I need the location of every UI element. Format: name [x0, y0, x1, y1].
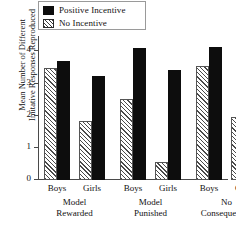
y-tick-1: 1	[34, 147, 39, 148]
y-tick-2: 2	[34, 115, 39, 116]
bar-chart-figure: Positive Incentive No Incentive Mean Num…	[0, 0, 236, 227]
x-label-boys-0: Boys	[37, 183, 77, 193]
legend-swatch-hatched-icon	[43, 19, 54, 28]
y-tick-label-0: 0	[27, 173, 32, 183]
bar-model-girls-positive-incentive	[92, 76, 105, 180]
legend-label-positive-incentive: Positive Incentive	[59, 5, 126, 15]
y-axis-line	[38, 36, 39, 180]
x-group-label-0: ModelRewarded	[40, 197, 110, 218]
legend-label-no-incentive: No Incentive	[59, 18, 107, 28]
legend-item-positive-incentive: Positive Incentive	[43, 4, 142, 16]
y-tick-label-2: 2	[27, 109, 32, 119]
y-tick-label-4: 4	[27, 44, 32, 54]
chart-legend: Positive Incentive No Incentive	[38, 1, 146, 30]
x-group-label-2: NoConsequences	[192, 197, 237, 218]
legend-swatch-solid-icon	[43, 6, 54, 15]
legend-item-no-incentive: No Incentive	[43, 17, 142, 29]
x-group-label-1-line-2: Punished	[116, 208, 186, 219]
bar-no-boys-positive-incentive	[209, 47, 222, 180]
plot-area: 01234 BoysGirlsBoysGirlsBoysGirls ModelR…	[38, 36, 228, 180]
x-group-label-0-line-2: Rewarded	[40, 208, 110, 219]
bar-model-girls-no-incentive	[155, 162, 168, 180]
y-tick-4: 4	[34, 50, 39, 51]
x-group-label-2-line-2: Consequences	[192, 208, 237, 219]
x-label-boys-2: Boys	[113, 183, 153, 193]
y-axis-title-line-1: Mean Number of Different	[17, 19, 27, 111]
bar-model-boys-no-incentive	[44, 68, 57, 180]
y-tick-3: 3	[34, 83, 39, 84]
x-group-label-0-line-1: Model	[40, 197, 110, 208]
bar-model-girls-no-incentive	[79, 121, 92, 180]
y-tick-0: 0	[34, 179, 39, 180]
bar-no-boys-no-incentive	[196, 66, 209, 180]
x-group-label-1-line-1: Model	[116, 197, 186, 208]
bar-model-boys-no-incentive	[120, 99, 133, 180]
y-tick-label-3: 3	[27, 77, 32, 87]
bar-no-girls-no-incentive	[231, 117, 236, 180]
y-axis-title-line-2: Imitative Responses Reproduced	[27, 9, 37, 121]
x-label-boys-4: Boys	[189, 183, 229, 193]
bar-model-boys-positive-incentive	[57, 61, 70, 180]
x-group-label-1: ModelPunished	[116, 197, 186, 218]
x-label-girls-5: Girls	[224, 183, 236, 193]
y-tick-label-1: 1	[27, 141, 32, 151]
bar-model-girls-positive-incentive	[168, 70, 181, 180]
y-axis-title: Mean Number of Different Imitative Respo…	[14, 0, 40, 145]
bar-model-boys-positive-incentive	[133, 48, 146, 180]
x-group-label-2-line-1: No	[192, 197, 237, 208]
x-label-girls-3: Girls	[148, 183, 188, 193]
x-label-girls-1: Girls	[72, 183, 112, 193]
